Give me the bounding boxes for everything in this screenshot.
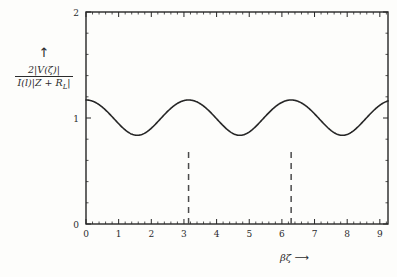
y-tick-label: 0: [73, 220, 79, 230]
y-tick-label: 2: [73, 8, 79, 18]
data-curve: [86, 100, 388, 135]
x-tick-label: 3: [181, 229, 187, 239]
plot-frame: [86, 12, 388, 224]
x-tick-label: 0: [83, 229, 89, 239]
x-tick-label: 7: [312, 229, 318, 239]
x-tick-label: 2: [148, 229, 154, 239]
x-tick-label: 8: [344, 229, 350, 239]
x-tick-label: 6: [279, 229, 285, 239]
x-tick-label: 4: [214, 229, 220, 239]
plot-area: 0123456789012: [0, 0, 397, 277]
y-tick-label: 1: [73, 114, 79, 124]
x-tick-label: 5: [246, 229, 252, 239]
x-tick-label: 1: [116, 229, 122, 239]
chart-figure: ↑ 2|V(ζ)| I(l)|Z + RL| βζ ⟶ 012345678901…: [0, 0, 397, 277]
x-tick-label: 9: [377, 229, 383, 239]
